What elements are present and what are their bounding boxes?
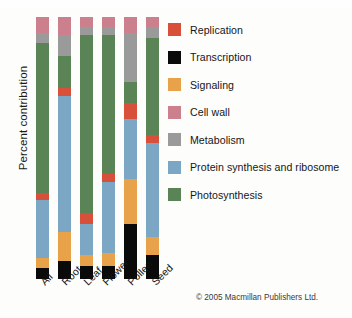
- bar-segment-replication: [80, 213, 93, 223]
- bar-segment-replication: [146, 135, 159, 143]
- bar-segment-photosynthesis: [80, 35, 93, 213]
- bar-segment-signaling: [58, 232, 71, 261]
- bar-pollen[interactable]: [124, 17, 137, 279]
- legend-swatch-icon: [168, 161, 181, 174]
- copyright-notice: © 2005 Macmillan Publishers Ltd.: [196, 293, 318, 302]
- bar-segment-signaling: [80, 255, 93, 265]
- legend-item-label: Photosynthesis: [190, 189, 263, 201]
- bar-segment-replication: [36, 193, 49, 201]
- bar-segment-metabolism: [80, 27, 93, 35]
- legend-item-label: Replication: [190, 24, 243, 36]
- legend-swatch-icon: [168, 188, 181, 201]
- legend-item-label: Signaling: [190, 79, 234, 91]
- y-axis-label: Percent contribution: [17, 33, 29, 203]
- legend-item-protein-synthesis-and-ribosome[interactable]: Protein synthesis and ribosome: [168, 154, 350, 182]
- bar-seed[interactable]: [146, 17, 159, 279]
- bar-segment-photosynthesis: [58, 56, 71, 87]
- bar-segment-metabolism: [146, 27, 159, 37]
- chart-legend: ReplicationTranscriptionSignalingCell wa…: [168, 16, 350, 209]
- x-axis-tick-labels: AllRootLeafFlowerPollenSeed: [30, 279, 180, 318]
- bar-segment-photosynthesis: [36, 43, 49, 192]
- bar-segment-cell-wall: [146, 17, 159, 27]
- legend-item-transcription[interactable]: Transcription: [168, 44, 350, 72]
- figure-top-margin: [0, 0, 352, 8]
- bar-segment-metabolism: [36, 33, 49, 43]
- legend-item-metabolism[interactable]: Metabolism: [168, 126, 350, 154]
- legend-item-label: Cell wall: [190, 106, 230, 118]
- bar-all[interactable]: [36, 17, 49, 279]
- bar-segment-photosynthesis: [102, 35, 115, 174]
- bar-segment-protein-synthesis-and-ribosome: [102, 182, 115, 253]
- legend-item-label: Protein synthesis and ribosome: [190, 161, 339, 173]
- bar-flower[interactable]: [102, 17, 115, 279]
- bar-segment-signaling: [124, 179, 137, 224]
- bar-segment-cell-wall: [124, 17, 137, 33]
- bar-segment-cell-wall: [80, 17, 93, 27]
- legend-item-label: Transcription: [190, 51, 252, 63]
- bar-segment-photosynthesis: [124, 82, 137, 103]
- legend-swatch-icon: [168, 133, 181, 146]
- bar-segment-protein-synthesis-and-ribosome: [124, 119, 137, 179]
- bar-segment-metabolism: [124, 33, 137, 83]
- bar-segment-photosynthesis: [146, 38, 159, 135]
- legend-swatch-icon: [168, 78, 181, 91]
- bar-segment-cell-wall: [58, 17, 71, 35]
- legend-swatch-icon: [168, 23, 181, 36]
- bar-segment-protein-synthesis-and-ribosome: [80, 224, 93, 255]
- plot-area: [30, 17, 165, 279]
- bar-root[interactable]: [58, 17, 71, 279]
- bar-segment-signaling: [146, 237, 159, 255]
- chart-figure: Percent contribution AllRootLeafFlowerPo…: [0, 0, 352, 318]
- bar-segment-cell-wall: [36, 17, 49, 33]
- bar-segment-cell-wall: [102, 17, 115, 27]
- bar-segment-protein-synthesis-and-ribosome: [36, 200, 49, 258]
- legend-item-cell-wall[interactable]: Cell wall: [168, 99, 350, 127]
- bar-segment-protein-synthesis-and-ribosome: [58, 96, 71, 232]
- bar-segment-metabolism: [58, 35, 71, 56]
- bar-leaf[interactable]: [80, 17, 93, 279]
- bar-segment-protein-synthesis-and-ribosome: [146, 143, 159, 237]
- legend-swatch-icon: [168, 51, 181, 64]
- legend-item-signaling[interactable]: Signaling: [168, 71, 350, 99]
- bar-segment-metabolism: [102, 27, 115, 35]
- bar-segment-signaling: [36, 258, 49, 268]
- bar-segment-signaling: [102, 253, 115, 266]
- bar-segment-replication: [58, 88, 71, 96]
- legend-item-label: Metabolism: [190, 134, 245, 146]
- legend-item-photosynthesis[interactable]: Photosynthesis: [168, 181, 350, 209]
- bar-segment-replication: [124, 103, 137, 119]
- legend-item-replication[interactable]: Replication: [168, 16, 350, 44]
- bar-segment-replication: [102, 174, 115, 182]
- legend-swatch-icon: [168, 106, 181, 119]
